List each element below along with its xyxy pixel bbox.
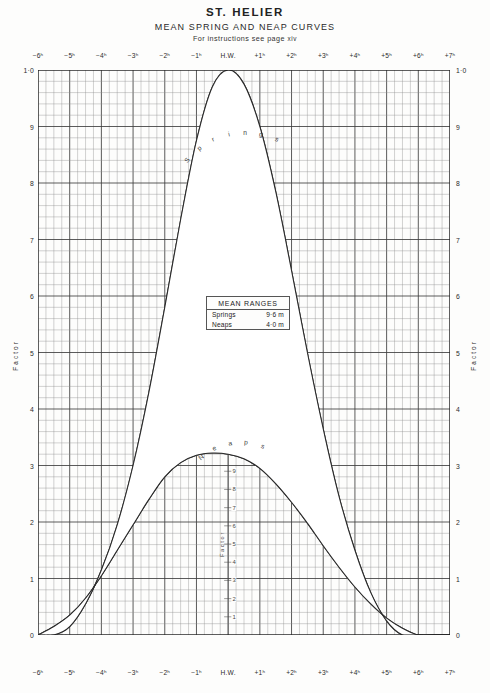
neaps-inner-tick-label: 5	[231, 541, 236, 547]
x-tick-label-bottom: H.W.	[221, 669, 236, 676]
x-tick-label-bottom: +1ʰ	[255, 669, 266, 676]
x-tick-label-bottom: +4ʰ	[350, 669, 361, 676]
y-tick-label-left: 8	[14, 180, 34, 187]
x-tick-label-bottom: +6ʰ	[413, 669, 424, 676]
y-tick-label-right: 9	[456, 123, 478, 130]
neaps-inner-tick-label: 2	[231, 596, 236, 602]
x-tick-label-bottom: −2ʰ	[159, 669, 170, 676]
y-tick-label-left: 1·0	[14, 67, 34, 74]
x-tick-label-bottom: +5ʰ	[381, 669, 392, 676]
title-block: ST. HELIER MEAN SPRING AND NEAP CURVES F…	[0, 6, 490, 43]
x-tick-label-top: +3ʰ	[318, 52, 329, 59]
y-tick-label-right: 3	[456, 462, 478, 469]
plot-area: 987654321	[38, 70, 450, 635]
instructions-note: For instructions see page xiv	[0, 34, 490, 43]
x-tick-label-bottom: −6ʰ	[33, 669, 44, 676]
mean-range-value: 9·6 m	[266, 311, 284, 318]
x-tick-label-bottom: +7ʰ	[445, 669, 456, 676]
x-tick-label-top: +7ʰ	[445, 52, 456, 59]
y-tick-label-right: 4	[456, 406, 478, 413]
mean-range-row: Neaps4·0 m	[207, 319, 289, 328]
y-tick-label-right: 1·0	[456, 67, 478, 74]
neaps-inner-tick-label: 8	[231, 486, 236, 492]
x-tick-label-bottom: +2ʰ	[286, 669, 297, 676]
mean-range-row: Springs9·6 m	[207, 310, 289, 319]
y-tick-label-left: 6	[14, 293, 34, 300]
neaps-inner-tick-label: 7	[231, 505, 236, 511]
x-tick-label-top: −1ʰ	[191, 52, 202, 59]
y-tick-label-left: 7	[14, 236, 34, 243]
x-tick-label-bottom: −5ʰ	[64, 669, 75, 676]
instructions-page-ref: xiv	[287, 35, 297, 42]
x-tick-label-top: −3ʰ	[128, 52, 139, 59]
y-tick-label-right: 0	[456, 632, 478, 639]
x-tick-label-top: −5ʰ	[64, 52, 75, 59]
instructions-text: For instructions see page	[193, 34, 285, 43]
x-tick-label-bottom: −4ʰ	[96, 669, 107, 676]
neaps-inner-axis-title: Factor	[219, 531, 225, 557]
y-tick-label-right: 6	[456, 293, 478, 300]
y-tick-label-left: 9	[14, 123, 34, 130]
y-tick-label-left: 4	[14, 406, 34, 413]
mean-range-name: Neaps	[212, 321, 232, 328]
y-tick-label-left: 2	[14, 519, 34, 526]
x-tick-label-top: −6ʰ	[33, 52, 44, 59]
mean-range-value: 4·0 m	[266, 321, 284, 328]
x-tick-label-bottom: +3ʰ	[318, 669, 329, 676]
tide-curve-page: ST. HELIER MEAN SPRING AND NEAP CURVES F…	[0, 0, 490, 693]
x-tick-label-top: −4ʰ	[96, 52, 107, 59]
y-tick-label-left: 3	[14, 462, 34, 469]
y-axis-left-title: Factor	[12, 340, 19, 371]
x-tick-label-top: +5ʰ	[381, 52, 392, 59]
neaps-inner-tick-label: 1	[231, 614, 236, 620]
neaps-inner-tick-label: 4	[231, 559, 236, 565]
y-axis-right-title: Factor	[470, 340, 477, 371]
page-subtitle: MEAN SPRING AND NEAP CURVES	[0, 22, 490, 32]
x-tick-label-top: +1ʰ	[255, 52, 266, 59]
mean-ranges-title: MEAN RANGES	[207, 297, 289, 310]
curve-label-glyph: a	[228, 439, 233, 447]
y-tick-label-right: 2	[456, 519, 478, 526]
page-title: ST. HELIER	[0, 6, 490, 18]
x-tick-label-top: +6ʰ	[413, 52, 424, 59]
x-tick-label-top: +4ʰ	[350, 52, 361, 59]
x-tick-label-bottom: −1ʰ	[191, 669, 202, 676]
y-tick-label-right: 1	[456, 575, 478, 582]
neaps-inner-tick-label: 6	[231, 523, 236, 529]
y-tick-label-right: 8	[456, 180, 478, 187]
mean-range-name: Springs	[212, 311, 236, 318]
y-tick-label-right: 7	[456, 236, 478, 243]
x-tick-label-bottom: −3ʰ	[128, 669, 139, 676]
x-tick-label-top: H.W.	[221, 52, 236, 59]
curve-label-glyph: n	[243, 129, 247, 136]
y-tick-label-left: 1	[14, 575, 34, 582]
x-tick-label-top: −2ʰ	[159, 52, 170, 59]
neaps-inner-tick-label: 3	[231, 577, 236, 583]
tide-curve-plot	[38, 70, 450, 635]
neaps-inner-tick-label: 9	[231, 468, 236, 474]
y-tick-label-left: 0	[14, 632, 34, 639]
x-tick-label-top: +2ʰ	[286, 52, 297, 59]
mean-ranges-box: MEAN RANGES Springs9·6 mNeaps4·0 m	[206, 296, 290, 330]
mean-ranges-rows: Springs9·6 mNeaps4·0 m	[207, 310, 289, 329]
